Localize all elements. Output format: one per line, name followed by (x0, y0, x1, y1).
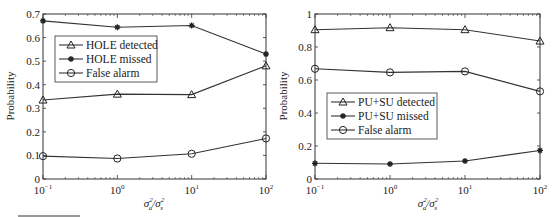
y-tick-label: 0.5 (26, 55, 40, 67)
y-tick-label: 0.4 (298, 107, 312, 119)
y-tick-label: 0.1 (26, 149, 40, 161)
left-y-axis-label: Probability (4, 71, 16, 120)
x-tick-label: 100 (110, 183, 125, 196)
star-marker (340, 113, 346, 119)
figure: 00.10.20.30.40.50.60.7 10−1100101102 Pro… (0, 0, 557, 217)
series-pu-su-missed (312, 147, 543, 167)
legend-label: PU+SU missed (358, 110, 429, 122)
y-tick-label: 0.7 (26, 8, 40, 20)
y-tick-label: 0.6 (26, 32, 40, 44)
legend-label: PU+SU detected (358, 96, 435, 108)
star-marker (114, 24, 120, 30)
right-x-axis-label: σ2a/σ2s (418, 196, 439, 212)
y-tick-label: 0.8 (298, 41, 312, 53)
legend-label: HOLE detected (86, 39, 158, 51)
series-false-alarm (311, 65, 543, 95)
star-marker (40, 18, 46, 24)
star-marker (387, 161, 393, 167)
x-tick-label: 102 (259, 183, 274, 196)
x-tick-label: 102 (533, 183, 548, 196)
y-tick-label: 0.4 (26, 79, 40, 91)
star-marker (537, 147, 543, 153)
y-tick-label: 0.3 (26, 102, 40, 114)
legend-label: False alarm (358, 124, 411, 136)
star-marker (263, 51, 269, 57)
star-marker (68, 56, 74, 62)
y-tick-label: 1 (307, 8, 313, 20)
legend-label: HOLE missed (86, 53, 152, 65)
star-marker (462, 158, 468, 164)
left-y-axis: 00.10.20.30.40.50.60.7 (26, 8, 266, 185)
x-tick-label: 101 (458, 183, 473, 196)
right-legend: PU+SU detectedPU+SU missedFalse alarm (327, 93, 437, 139)
x-tick-label: 101 (184, 183, 199, 196)
x-tick-label: 10−1 (34, 183, 53, 196)
star-marker (312, 160, 318, 166)
x-tick-label: 100 (383, 183, 398, 196)
x-tick-label: 10−1 (306, 183, 325, 196)
left-chart: 00.10.20.30.40.50.60.7 10−1100101102 Pro… (4, 8, 274, 212)
right-chart: 00.20.40.60.81 10−1100101102 Probability… (277, 8, 548, 212)
y-tick-label: 0.2 (26, 126, 40, 138)
series-pu-su-detected (311, 24, 544, 44)
left-x-axis-label: σ2a/σ2s (144, 196, 165, 212)
right-y-axis-label: Probability (277, 71, 289, 120)
star-marker (189, 23, 195, 29)
legend-label: False alarm (86, 67, 139, 79)
series-false-alarm (39, 135, 269, 162)
left-legend: HOLE detectedHOLE missedFalse alarm (55, 36, 158, 82)
y-tick-label: 0.2 (298, 140, 312, 152)
y-tick-label: 0.6 (298, 74, 312, 86)
